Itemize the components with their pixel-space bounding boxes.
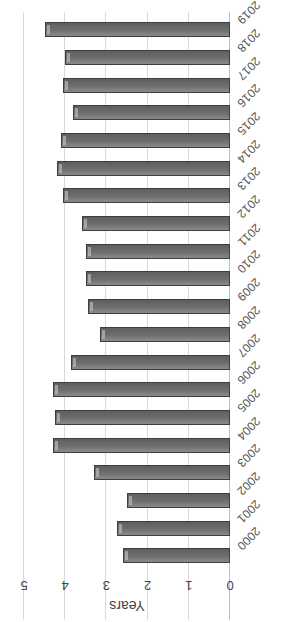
bar-2014 [57, 161, 230, 176]
category-label: 2014 [234, 137, 263, 166]
category-label: 2002 [234, 469, 263, 498]
bar-2006 [53, 382, 230, 397]
bar-row [24, 188, 230, 203]
bar-2013 [63, 188, 230, 203]
bar-row [24, 105, 230, 120]
category-label: 2018 [234, 26, 263, 55]
category-label: 2010 [234, 248, 263, 277]
x-tick-label: 0 [220, 578, 240, 593]
bar-2010 [86, 272, 230, 287]
category-label: 2013 [234, 165, 263, 194]
x-tick-label: 4 [55, 578, 75, 593]
bar-2005 [55, 410, 230, 425]
bar-row [24, 22, 230, 37]
bar-2015 [61, 133, 230, 148]
bar-row [24, 521, 230, 536]
bar-2001 [117, 521, 230, 536]
category-label: 2007 [234, 331, 263, 360]
category-label: 2000 [234, 525, 263, 554]
bar-row [24, 244, 230, 259]
x-tick-label: 3 [96, 578, 116, 593]
bar-2011 [86, 244, 230, 259]
bar-row [24, 161, 230, 176]
bar-2000 [123, 549, 230, 564]
bar-2008 [100, 327, 230, 342]
category-label: 2017 [234, 54, 263, 83]
category-label: 2016 [234, 81, 263, 110]
bar-row [24, 216, 230, 231]
plot-area [24, 12, 230, 622]
category-label: 2012 [234, 192, 263, 221]
category-label: 2001 [234, 497, 263, 526]
bar-2018 [65, 50, 230, 65]
bar-row [24, 438, 230, 453]
bar-2002 [127, 493, 230, 508]
bar-2019 [45, 22, 230, 37]
bar-row [24, 549, 230, 564]
bar-row [24, 133, 230, 148]
category-label: 2005 [234, 386, 263, 415]
bar-row [24, 355, 230, 370]
bar-chart: 012345 Years 200020012002200320042005200… [0, 0, 288, 622]
bar-2004 [53, 438, 230, 453]
bar-2017 [63, 78, 230, 93]
bar-row [24, 272, 230, 287]
bar-row [24, 299, 230, 314]
bar-row [24, 327, 230, 342]
category-label: 2009 [234, 275, 263, 304]
bar-row [24, 78, 230, 93]
x-tick-label: 1 [179, 578, 199, 593]
x-tick-label: 5 [14, 578, 34, 593]
category-label: 2011 [235, 221, 263, 249]
category-label: 2003 [234, 442, 263, 471]
x-axis-title: Years [87, 598, 167, 614]
bar-row [24, 382, 230, 397]
category-label: 2008 [234, 303, 263, 332]
bar-2016 [73, 105, 230, 120]
bar-row [24, 493, 230, 508]
bar-2009 [88, 299, 230, 314]
bar-row [24, 465, 230, 480]
bar-row [24, 50, 230, 65]
category-label: 2019 [234, 0, 263, 27]
x-tick-label: 2 [138, 578, 158, 593]
bar-2007 [71, 355, 230, 370]
bar-row [24, 410, 230, 425]
bar-2012 [82, 216, 230, 231]
category-label: 2004 [234, 414, 263, 443]
category-label: 2015 [234, 109, 263, 138]
category-label: 2006 [234, 358, 263, 387]
bar-2003 [94, 465, 230, 480]
